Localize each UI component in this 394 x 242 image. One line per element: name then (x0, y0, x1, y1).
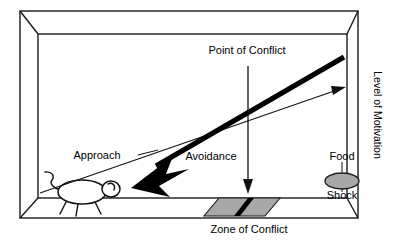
alley-edge-top-left (20, 11, 38, 34)
approach-label-leader (138, 150, 158, 155)
food-shock-grid-icon (325, 173, 359, 189)
approach-label: Approach (73, 149, 120, 161)
alley-edge-bottom-left (20, 198, 38, 218)
approach-arrowhead (331, 86, 346, 95)
food-label: Food (329, 150, 354, 162)
avoidance-gradient (131, 57, 344, 197)
rat-leg-front-left (60, 202, 66, 214)
approach-avoidance-conflict-figure: Point of Conflict Approach Avoidance Foo… (0, 0, 394, 242)
approach-gradient (40, 86, 346, 193)
approach-gradient-line (40, 89, 340, 193)
zone-of-conflict-label: Zone of Conflict (210, 223, 287, 235)
point-of-conflict-arrowhead (243, 179, 253, 194)
level-of-motivation-axis-label: Level of Motivation (372, 71, 384, 159)
point-of-conflict-pointer (243, 66, 253, 194)
rat-leg-rear (95, 202, 101, 214)
rat-body (58, 180, 106, 204)
zone-of-conflict-region (204, 198, 280, 216)
shock-label: Shock (327, 189, 358, 201)
avoidance-label: Avoidance (185, 150, 236, 162)
point-of-conflict-label: Point of Conflict (208, 44, 285, 56)
avoidance-gradient-line (156, 57, 344, 166)
alley-back-face (38, 34, 347, 198)
figure-canvas: Point of Conflict Approach Avoidance Foo… (0, 0, 394, 242)
rat-leg-front-right (76, 204, 78, 216)
alley-edge-bottom-right (347, 198, 358, 218)
alley-edge-top-right (347, 11, 358, 34)
